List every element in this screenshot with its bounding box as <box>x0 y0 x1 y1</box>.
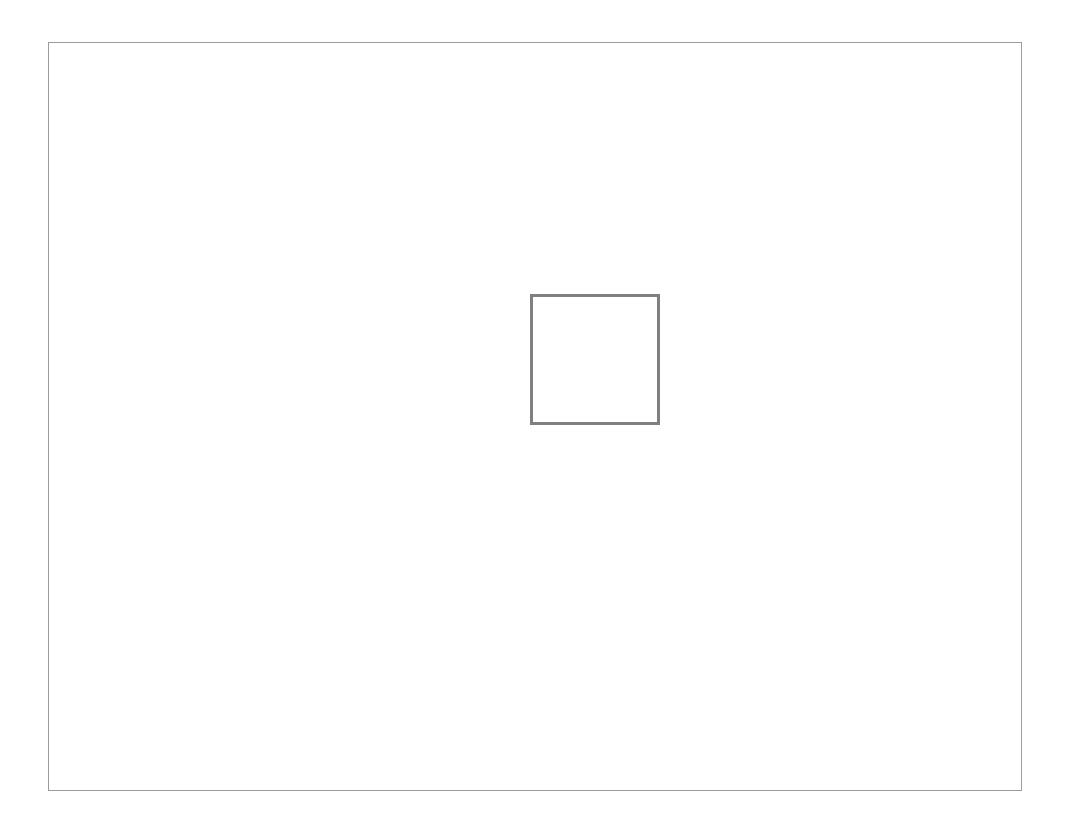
outer-frame-rectangle <box>48 42 1022 791</box>
inner-square-content <box>533 297 657 422</box>
inner-square-rectangle[interactable] <box>530 294 660 425</box>
canvas-root <box>0 0 1069 829</box>
